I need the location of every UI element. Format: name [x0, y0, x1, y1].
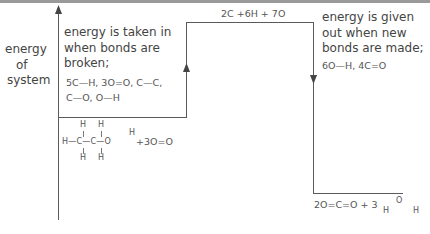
arrow-up-icon: [183, 63, 190, 72]
atom-h: H: [80, 153, 86, 162]
water-h1: H: [383, 206, 389, 215]
axis-label-line: of: [5, 58, 50, 74]
text-line: energy is taken in: [64, 25, 171, 41]
bonds-line: 5C—H, 3O=O, C—C,: [66, 75, 162, 90]
axis-arrow-up-icon: [55, 5, 62, 14]
text-line: broken;: [64, 56, 171, 72]
text-line: energy is given: [322, 10, 424, 26]
axis-label-line: energy: [5, 42, 50, 58]
atom-h: H: [80, 120, 86, 129]
energy-axis: [58, 10, 59, 220]
reactants-level: [58, 117, 187, 118]
water-o: O: [396, 196, 402, 205]
text-line: out when new: [322, 26, 424, 42]
arrow-down-icon: [310, 75, 317, 84]
oxygen-reactant: +3O=O: [136, 134, 173, 149]
atom-h: H: [98, 120, 104, 129]
intermediate-label: 2C +6H + 7O: [221, 6, 285, 21]
bond-making-text: energy is given out when new bonds are m…: [322, 10, 424, 57]
water-h2: H: [413, 206, 419, 215]
bonds-broken-list: 5C—H, 3O=O, C—C, C—O, O—H: [66, 75, 162, 105]
axis-label: energy of system: [5, 42, 50, 89]
intermediate-level: [186, 22, 314, 23]
bonds-line: C—O, O—H: [66, 90, 162, 105]
atom-h: H: [98, 153, 104, 162]
molecule-main-chain: H—C—C—O: [62, 137, 111, 146]
bond-breaking-text: energy is taken in when bonds are broken…: [64, 25, 171, 72]
top-border: [0, 0, 430, 3]
text-line: when bonds are: [64, 41, 171, 57]
co2-product: 2O=C=O + 3: [314, 197, 378, 212]
products-level: [313, 193, 403, 194]
text-line: bonds are made;: [322, 41, 424, 57]
bond-making-step: [313, 22, 314, 194]
axis-label-line: system: [5, 73, 50, 89]
atom-h: H: [129, 128, 135, 137]
bonds-made-list: 6O—H, 4C=O: [322, 58, 386, 73]
